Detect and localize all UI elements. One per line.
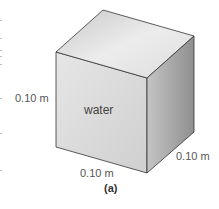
figure-caption: (a) [104, 182, 117, 194]
height-dimension-label: 0.10 m [15, 92, 49, 104]
depth-dimension-label: 0.10 m [176, 150, 210, 162]
content-label: water [84, 103, 113, 117]
width-dimension-label: 0.10 m [80, 167, 114, 179]
